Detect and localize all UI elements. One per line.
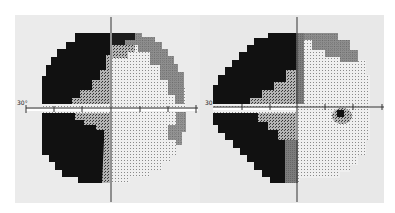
right-eccentricity-label: 30° xyxy=(205,100,216,106)
left-eccentricity-label: 30° xyxy=(17,100,28,106)
right-field xyxy=(213,17,384,202)
left-field xyxy=(26,17,198,202)
visual-field-plots xyxy=(0,0,395,213)
